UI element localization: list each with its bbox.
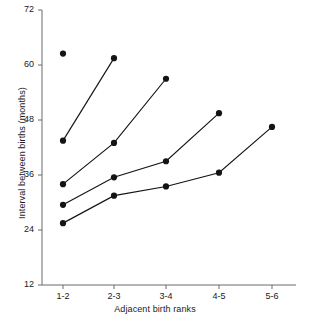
series-2-point-1-2 — [60, 181, 66, 187]
x-tick-label-1-2: 1-2 — [43, 292, 83, 301]
x-tick-label-5-6: 5-6 — [252, 292, 292, 301]
series-2-point-2-3 — [111, 140, 117, 146]
y-tick-label-12: 12 — [8, 280, 34, 289]
series-4-point-5-6 — [269, 124, 275, 130]
x-tick-label-2-3: 2-3 — [94, 292, 134, 301]
series-1-point-2-3 — [111, 55, 117, 61]
series-3-point-2-3 — [111, 174, 117, 180]
series-4-point-4-5 — [216, 170, 222, 176]
x-axis-title: Adjacent birth ranks — [0, 304, 310, 314]
chart-container: 122436486072 1-22-33-44-55-6 Interval be… — [0, 0, 310, 322]
x-tick-label-4-5: 4-5 — [199, 292, 239, 301]
series-3-point-3-4 — [163, 158, 169, 164]
series-4-point-2-3 — [111, 193, 117, 199]
series-1-line — [63, 58, 114, 141]
series-4-point-1-2 — [60, 220, 66, 226]
series-2-point-3-4 — [163, 76, 169, 82]
series-3-point-1-2 — [60, 202, 66, 208]
series-4-point-3-4 — [163, 183, 169, 189]
plot-area — [0, 0, 310, 322]
y-tick-label-72: 72 — [8, 5, 34, 14]
y-axis-title: Interval between births (months) — [17, 43, 27, 263]
isolated-point-1 — [60, 50, 66, 56]
series-3-point-4-5 — [216, 110, 222, 116]
series-1-point-1-2 — [60, 138, 66, 144]
series-4-line — [63, 127, 272, 223]
x-tick-label-3-4: 3-4 — [146, 292, 186, 301]
series-2-line — [63, 79, 166, 184]
axis-spine — [42, 10, 296, 285]
